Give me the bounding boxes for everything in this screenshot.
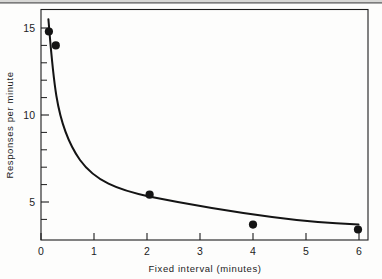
x-tick-label: 4 bbox=[250, 245, 256, 257]
plot-frame bbox=[41, 10, 368, 241]
chart-figure: 0 1 2 3 4 5 6 15 10 5 Fixed interval (mi… bbox=[0, 0, 382, 279]
x-tick-labels: 0 1 2 3 4 5 6 bbox=[38, 245, 362, 257]
chart-svg: 0 1 2 3 4 5 6 15 10 5 Fixed interval (mi… bbox=[0, 0, 382, 279]
y-axis-minor-ticks bbox=[41, 45, 47, 219]
fit-curve bbox=[48, 19, 358, 224]
x-tick-label: 5 bbox=[303, 245, 309, 257]
figure-page: 0 1 2 3 4 5 6 15 10 5 Fixed interval (mi… bbox=[0, 0, 382, 279]
y-tick-label: 10 bbox=[23, 109, 35, 121]
y-tick-label: 15 bbox=[23, 22, 35, 34]
x-tick-label: 3 bbox=[197, 245, 203, 257]
data-point bbox=[354, 225, 362, 233]
x-tick-label: 0 bbox=[38, 245, 44, 257]
y-tick-labels: 15 10 5 bbox=[23, 22, 35, 208]
x-tick-label: 2 bbox=[144, 245, 150, 257]
y-axis-title: Responses per minute bbox=[4, 71, 15, 178]
x-axis-ticks bbox=[41, 233, 359, 240]
data-point bbox=[45, 27, 53, 35]
y-axis-major-ticks bbox=[41, 28, 49, 202]
data-point bbox=[146, 191, 154, 199]
data-points bbox=[45, 27, 362, 233]
data-point bbox=[249, 221, 257, 229]
x-tick-label: 6 bbox=[356, 245, 362, 257]
y-tick-label: 5 bbox=[29, 196, 35, 208]
data-point bbox=[52, 41, 60, 49]
x-tick-label: 1 bbox=[91, 245, 97, 257]
x-axis-title: Fixed interval (minutes) bbox=[148, 263, 261, 274]
